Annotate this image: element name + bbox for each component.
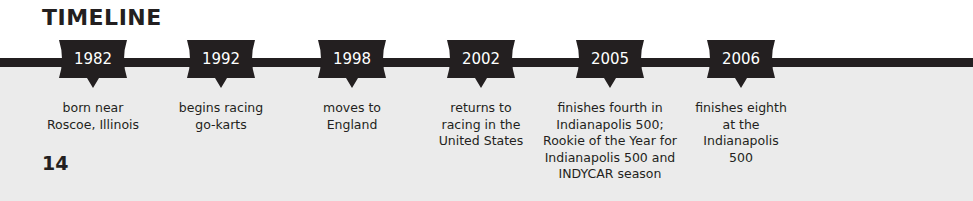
year-badge: 2006 (705, 40, 777, 88)
page-title: TIMELINE (42, 5, 162, 30)
event-description: moves to England (282, 100, 422, 133)
year-badge: 1998 (316, 40, 388, 88)
event-description: returns to racing in the United States (411, 100, 551, 150)
year-badge: 1982 (57, 40, 129, 88)
event-year: 1982 (57, 49, 129, 69)
event-description: born near Roscoe, Illinois (23, 100, 163, 133)
year-badge: 1992 (185, 40, 257, 88)
page-number: 14 (42, 152, 68, 174)
event-year: 1998 (316, 49, 388, 69)
event-description: begins racing go-karts (151, 100, 291, 133)
event-year: 2006 (705, 49, 777, 69)
event-description: finishes eighth at the Indianapolis 500 (671, 100, 811, 166)
year-badge: 2005 (574, 40, 646, 88)
event-year: 2002 (445, 49, 517, 69)
event-year: 1992 (185, 49, 257, 69)
event-description: finishes fourth in Indianapolis 500; Roo… (534, 100, 686, 183)
year-badge: 2002 (445, 40, 517, 88)
event-year: 2005 (574, 49, 646, 69)
